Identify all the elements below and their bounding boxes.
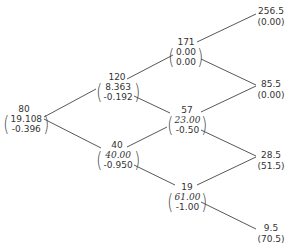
node-vector: ( 23.00 -0.50 ) bbox=[166, 115, 209, 135]
node-value-1: 61.00 bbox=[175, 192, 201, 202]
leaf-price: 85.5 bbox=[256, 79, 286, 90]
right-paren: ) bbox=[134, 150, 140, 170]
node-1-down: 40 ( 40.00 -0.950 ) bbox=[95, 140, 139, 170]
edge-n2ud-l3uud bbox=[201, 86, 256, 112]
node-vector: ( 0.00 0.00 ) bbox=[167, 47, 204, 67]
right-paren: ) bbox=[197, 47, 203, 67]
left-paren: ( bbox=[96, 82, 102, 102]
node-1-up: 120 ( 8.363 -0.192 ) bbox=[95, 72, 139, 102]
leaf-price: 28.5 bbox=[256, 150, 286, 161]
node-value-2: -1.00 bbox=[175, 202, 201, 212]
edge-n2dd-l3udd bbox=[197, 157, 256, 185]
right-paren: ) bbox=[134, 82, 140, 102]
left-paren: ( bbox=[96, 150, 102, 170]
edge-n2ud-l3udd bbox=[201, 130, 256, 156]
leaf-payoff: (70.5) bbox=[256, 234, 286, 245]
node-value-2: 0.00 bbox=[176, 57, 196, 67]
left-paren: ( bbox=[167, 192, 173, 212]
node-vector: ( 19.108 -0.396 ) bbox=[2, 114, 51, 134]
right-paren: ) bbox=[43, 114, 49, 134]
node-value-1: 40.00 bbox=[104, 150, 133, 160]
leaf-payoff: (0.00) bbox=[256, 17, 286, 28]
left-paren: ( bbox=[169, 47, 175, 67]
node-value-2: -0.192 bbox=[104, 92, 133, 102]
leaf-payoff: (0.00) bbox=[256, 90, 286, 101]
edge-n0-n1u bbox=[44, 89, 96, 117]
node-2-downdown: 19 ( 61.00 -1.00 ) bbox=[166, 182, 208, 212]
leaf-payoff: (51.5) bbox=[256, 161, 286, 172]
leaf-ddd: 9.5 (70.5) bbox=[256, 223, 286, 245]
node-root: 80 ( 19.108 -0.396 ) bbox=[2, 104, 46, 134]
node-2-updown: 57 ( 23.00 -0.50 ) bbox=[166, 105, 208, 135]
node-vector: ( 8.363 -0.192 ) bbox=[95, 82, 141, 102]
leaf-udd: 28.5 (51.5) bbox=[256, 150, 286, 172]
leaf-price: 256.5 bbox=[256, 6, 286, 17]
node-value-2: -0.950 bbox=[104, 160, 133, 170]
node-value-1: 8.363 bbox=[104, 82, 133, 92]
node-value-2: -0.396 bbox=[11, 124, 43, 134]
edge-n0-n1d bbox=[44, 119, 101, 148]
left-paren: ( bbox=[167, 115, 173, 135]
node-value-1: 23.00 bbox=[175, 115, 201, 125]
node-value-2: -0.50 bbox=[175, 125, 201, 135]
leaf-uuu: 256.5 (0.00) bbox=[256, 6, 286, 28]
right-paren: ) bbox=[202, 115, 208, 135]
leaf-price: 9.5 bbox=[256, 223, 286, 234]
node-vector: ( 61.00 -1.00 ) bbox=[166, 192, 209, 212]
left-paren: ( bbox=[3, 114, 9, 134]
edge-n2dd-l3ddd bbox=[201, 202, 256, 229]
node-2-upup: 171 ( 0.00 0.00 ) bbox=[166, 37, 206, 67]
right-paren: ) bbox=[202, 192, 208, 212]
edge-n2uu-l3uud bbox=[201, 59, 256, 85]
leaf-uud: 85.5 (0.00) bbox=[256, 79, 286, 101]
node-value-1: 19.108 bbox=[11, 114, 43, 124]
node-value-1: 0.00 bbox=[176, 47, 196, 57]
node-vector: ( 40.00 -0.950 ) bbox=[95, 150, 141, 170]
